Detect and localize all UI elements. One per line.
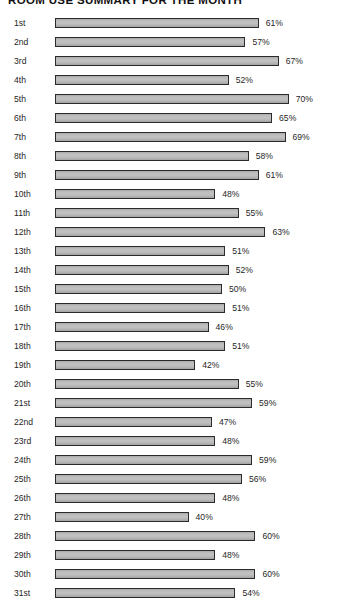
bar xyxy=(55,227,265,237)
bar-value-label: 51% xyxy=(225,299,249,318)
bar-track: 69% xyxy=(55,128,363,147)
bar-track: 47% xyxy=(55,413,363,432)
bar xyxy=(55,398,252,408)
bar-track: 63% xyxy=(55,223,363,242)
bar-track: 70% xyxy=(55,90,363,109)
bar xyxy=(55,56,279,66)
bar-value-label: 63% xyxy=(265,223,289,242)
bar-category-label: 21st xyxy=(14,394,48,413)
bar-value-label: 70% xyxy=(289,90,313,109)
bar-value-label: 48% xyxy=(215,185,239,204)
bar-value-label: 54% xyxy=(235,584,259,603)
bar-value-label: 48% xyxy=(215,432,239,451)
bar-category-label: 10th xyxy=(14,185,48,204)
bar-track: 60% xyxy=(55,565,363,584)
bar-track: 52% xyxy=(55,261,363,280)
bar-row: 2nd57% xyxy=(0,33,363,52)
bar-row: 20th55% xyxy=(0,375,363,394)
bar-value-label: 59% xyxy=(252,394,276,413)
bar-value-label: 60% xyxy=(255,565,279,584)
bar xyxy=(55,360,195,370)
bar-row: 27th40% xyxy=(0,508,363,527)
bar xyxy=(55,550,215,560)
bar-row: 3rd67% xyxy=(0,52,363,71)
bar xyxy=(55,132,286,142)
bar-track: 55% xyxy=(55,204,363,223)
bar-category-label: 13th xyxy=(14,242,48,261)
bar-category-label: 7th xyxy=(14,128,48,147)
bar-track: 48% xyxy=(55,546,363,565)
bar xyxy=(55,189,215,199)
bar-track: 51% xyxy=(55,299,363,318)
bar-row: 30th60% xyxy=(0,565,363,584)
bar-row: 29th48% xyxy=(0,546,363,565)
bar xyxy=(55,151,249,161)
bar xyxy=(55,94,289,104)
bar xyxy=(55,75,229,85)
bar-row: 28th60% xyxy=(0,527,363,546)
bar-category-label: 19th xyxy=(14,356,48,375)
bar xyxy=(55,341,225,351)
bar-category-label: 22nd xyxy=(14,413,48,432)
bar xyxy=(55,455,252,465)
bar-category-label: 20th xyxy=(14,375,48,394)
bar-value-label: 50% xyxy=(222,280,246,299)
bar-track: 59% xyxy=(55,394,363,413)
bar-row: 7th69% xyxy=(0,128,363,147)
bar-value-label: 51% xyxy=(225,337,249,356)
bar-category-label: 26th xyxy=(14,489,48,508)
bar-track: 51% xyxy=(55,242,363,261)
bar-track: 55% xyxy=(55,375,363,394)
bar xyxy=(55,493,215,503)
bar-track: 60% xyxy=(55,527,363,546)
bar xyxy=(55,113,272,123)
bar-value-label: 55% xyxy=(239,204,263,223)
bar-value-label: 61% xyxy=(259,14,283,33)
bar xyxy=(55,284,222,294)
bar xyxy=(55,170,259,180)
bar-track: 50% xyxy=(55,280,363,299)
bar-category-label: 1st xyxy=(14,14,48,33)
bar-value-label: 52% xyxy=(229,71,253,90)
bar-category-label: 24th xyxy=(14,451,48,470)
bar xyxy=(55,18,259,28)
bar-track: 54% xyxy=(55,584,363,603)
bar-row: 10th48% xyxy=(0,185,363,204)
bar-value-label: 48% xyxy=(215,489,239,508)
bar-row: 15th50% xyxy=(0,280,363,299)
bar-category-label: 5th xyxy=(14,90,48,109)
bar xyxy=(55,417,212,427)
bar-category-label: 6th xyxy=(14,109,48,128)
bar-category-label: 17th xyxy=(14,318,48,337)
bar-value-label: 42% xyxy=(195,356,219,375)
bar-category-label: 30th xyxy=(14,565,48,584)
bar-track: 48% xyxy=(55,185,363,204)
bar-row: 9th61% xyxy=(0,166,363,185)
bar xyxy=(55,208,239,218)
bar-row: 6th65% xyxy=(0,109,363,128)
bar-track: 57% xyxy=(55,33,363,52)
bar-value-label: 57% xyxy=(245,33,269,52)
bar-category-label: 8th xyxy=(14,147,48,166)
bar-value-label: 40% xyxy=(189,508,213,527)
bar-category-label: 11th xyxy=(14,204,48,223)
bar-track: 61% xyxy=(55,14,363,33)
bar-category-label: 29th xyxy=(14,546,48,565)
bar-value-label: 47% xyxy=(212,413,236,432)
bar-category-label: 4th xyxy=(14,71,48,90)
bar-row: 22nd47% xyxy=(0,413,363,432)
bar-track: 42% xyxy=(55,356,363,375)
bar-category-label: 28th xyxy=(14,527,48,546)
bar xyxy=(55,322,209,332)
bar-track: 58% xyxy=(55,147,363,166)
bar-track: 61% xyxy=(55,166,363,185)
bar xyxy=(55,531,255,541)
bar-category-label: 15th xyxy=(14,280,48,299)
bar-value-label: 48% xyxy=(215,546,239,565)
bar-category-label: 12th xyxy=(14,223,48,242)
bar-track: 51% xyxy=(55,337,363,356)
bar-category-label: 2nd xyxy=(14,33,48,52)
bar-category-label: 18th xyxy=(14,337,48,356)
page-title: ROOM USE SUMMARY FOR THE MONTH xyxy=(8,0,363,9)
bar xyxy=(55,246,225,256)
